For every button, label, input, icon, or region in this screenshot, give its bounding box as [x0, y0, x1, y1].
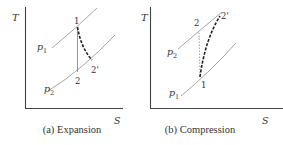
point-2-label: 2	[75, 76, 80, 86]
isobar-p1	[181, 43, 236, 96]
isobar-p2	[178, 12, 222, 49]
point-1-label: 1	[74, 16, 79, 26]
isobar-p1-label: p1	[37, 41, 47, 55]
panel-compression: T S p2 p1 1 2 2' (b) Compression	[141, 7, 283, 136]
isentropic-process-1-2	[199, 31, 200, 76]
caption-compression: (b) Compression	[165, 124, 236, 136]
isobar-p1	[52, 8, 97, 48]
isobar-p2-label: p2	[44, 83, 54, 97]
point-2prime-label: 2'	[91, 65, 99, 75]
ts-diagram-figure: T S p1 p2 1 2 2' (a) Expansion T S p2 p1…	[0, 0, 283, 145]
actual-process-1-2prime	[200, 16, 220, 77]
point-2prime-label: 2'	[221, 11, 229, 21]
caption-expansion: (a) Expansion	[43, 124, 102, 136]
s-axis-label: S	[262, 115, 269, 126]
isobar-p1-label: p1	[169, 87, 179, 101]
point-1-label: 1	[201, 80, 206, 90]
isobar-p2-label: p2	[167, 46, 177, 60]
t-axis-label: T	[12, 12, 20, 23]
actual-process-1-2prime	[78, 27, 93, 60]
point-2-label: 2	[194, 18, 199, 28]
panel-expansion: T S p1 p2 1 2 2' (a) Expansion	[12, 7, 123, 136]
s-axis-label: S	[114, 115, 121, 126]
t-axis-label: T	[141, 12, 149, 23]
